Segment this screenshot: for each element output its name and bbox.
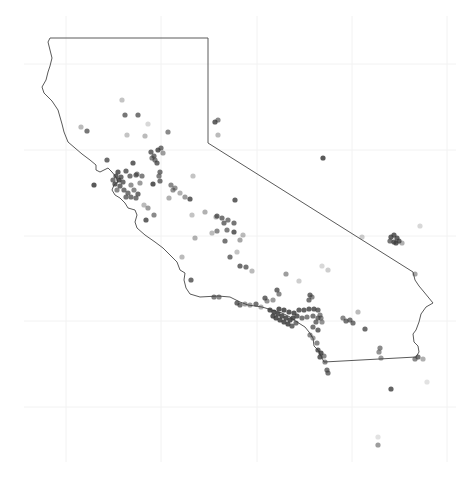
data-point (227, 254, 232, 259)
data-point (315, 327, 320, 332)
data-point (378, 355, 383, 360)
data-point (286, 309, 291, 314)
data-point (310, 313, 315, 318)
data-point (315, 307, 320, 312)
data-point (145, 121, 150, 126)
data-point (231, 220, 236, 225)
data-point (237, 237, 242, 242)
data-point (190, 173, 195, 178)
data-point (192, 235, 197, 240)
data-point (202, 209, 207, 214)
data-point (281, 307, 286, 312)
data-point (325, 370, 330, 375)
data-point (249, 268, 254, 273)
data-point (362, 326, 367, 331)
data-point (118, 174, 123, 179)
data-point (84, 128, 89, 133)
data-point (214, 213, 219, 218)
data-point (309, 294, 314, 299)
data-point (359, 234, 364, 239)
data-point (149, 155, 154, 160)
data-point (160, 150, 165, 155)
data-point (350, 320, 355, 325)
data-point (310, 335, 315, 340)
data-point (209, 230, 214, 235)
data-point (393, 240, 398, 245)
data-point (237, 263, 242, 268)
data-point (215, 132, 220, 137)
data-point (355, 309, 360, 314)
data-point (258, 304, 263, 309)
data-point (123, 168, 128, 173)
data-point (133, 172, 138, 177)
data-point (375, 442, 380, 447)
data-point (225, 217, 230, 222)
data-point (222, 238, 227, 243)
data-point (172, 185, 177, 190)
data-point (412, 271, 417, 276)
data-point (313, 319, 318, 324)
data-point (137, 180, 142, 185)
map-background (0, 0, 476, 484)
data-point (387, 238, 392, 243)
data-point (91, 182, 96, 187)
data-point (294, 313, 299, 318)
data-point (420, 356, 425, 361)
data-point (130, 160, 135, 165)
data-point (376, 349, 381, 354)
data-point (304, 314, 309, 319)
data-point (270, 313, 275, 318)
data-point (306, 306, 311, 311)
data-point (293, 320, 298, 325)
data-point (135, 191, 140, 196)
data-point (283, 271, 288, 276)
data-point (120, 179, 125, 184)
data-point (270, 297, 275, 302)
data-point (237, 302, 242, 307)
data-point (318, 315, 323, 320)
data-point (128, 182, 133, 187)
data-point (165, 129, 170, 134)
data-point (314, 340, 319, 345)
data-point (276, 291, 281, 296)
data-point (114, 187, 119, 192)
data-point (320, 155, 325, 160)
data-point (234, 249, 239, 254)
data-point (276, 306, 281, 311)
data-point (135, 112, 140, 117)
data-point (187, 196, 192, 201)
data-point (119, 97, 124, 102)
data-point (299, 315, 304, 320)
data-point (123, 194, 128, 199)
data-point (296, 307, 301, 312)
data-point (158, 145, 163, 150)
data-point (142, 133, 147, 138)
data-point (127, 173, 132, 178)
data-point (215, 117, 220, 122)
data-point (128, 194, 133, 199)
data-point (188, 277, 193, 282)
data-point (150, 181, 155, 186)
data-point (182, 194, 187, 199)
data-point (388, 386, 393, 391)
data-point (243, 264, 248, 269)
data-point (141, 202, 146, 207)
data-point (143, 217, 148, 222)
data-point (110, 177, 115, 182)
data-point (319, 263, 324, 268)
data-point (296, 278, 301, 283)
data-point (219, 215, 224, 220)
data-point (232, 197, 237, 202)
data-point (177, 190, 182, 195)
data-point (224, 227, 229, 232)
data-point (131, 187, 136, 192)
data-point (189, 212, 194, 217)
data-point (122, 112, 127, 117)
data-point (325, 267, 330, 272)
data-point (253, 301, 258, 306)
data-point (301, 307, 306, 312)
data-point (322, 359, 327, 364)
data-point (242, 301, 247, 306)
data-point (321, 353, 326, 358)
data-point (240, 232, 245, 237)
